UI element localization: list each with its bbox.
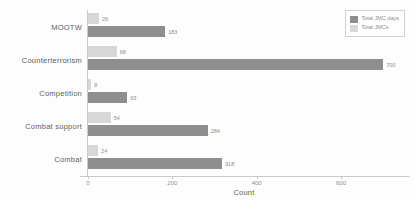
bar-total-jmcs: 68 [88,46,117,57]
legend-label-total-jmc-days: Total JMC days [361,16,399,22]
bar-total-jmcs: 8 [88,79,91,90]
chart-category-row: Counterterrorism68700 [88,43,400,76]
legend-item-total-jmc-days: Total JMC days [350,15,399,23]
x-axis-tick-label: 0 [86,180,89,186]
x-axis-tick-mark [341,176,342,179]
legend-swatch-icon-total-jmcs [350,25,358,32]
x-axis-tick-mark [257,176,258,179]
bar-value-label: 68 [120,49,126,55]
legend-label-total-jmcs: Total JMCs [361,25,388,31]
bar-value-label: 183 [168,29,177,35]
legend-item-total-jmcs: Total JMCs [350,24,399,32]
bar-value-label: 284 [211,128,220,134]
x-axis-tick-mark [172,176,173,179]
bar-value-label: 8 [94,82,97,88]
bar-value-label: 24 [101,148,107,154]
bar-total-jmcs: 54 [88,112,111,123]
bar-total-jmcs: 26 [88,13,99,24]
chart-category-row: Combat24318 [88,142,400,175]
x-axis-tick-label: 600 [336,180,346,186]
bar-total-jmc-days: 318 [88,158,222,169]
bar-value-label: 26 [102,16,108,22]
x-axis-tick-label: 400 [252,180,262,186]
y-axis-category-label: Counterterrorism [22,55,82,64]
bar-total-jmc-days: 700 [88,59,383,70]
x-axis-title: Count [88,188,400,197]
bar-total-jmc-days: 183 [88,26,165,37]
y-axis-category-label: Competition [39,88,82,97]
bar-value-label: 93 [130,95,136,101]
y-axis-category-label: Combat support [25,121,82,130]
bar-value-label: 700 [386,62,395,68]
bar-total-jmcs: 24 [88,145,98,156]
bar-value-label: 318 [225,161,234,167]
x-axis-line [80,176,410,177]
chart-legend: Total JMC days Total JMCs [345,10,405,37]
bar-chart: MOOTW26183Counterterrorism68700Competiti… [0,0,415,202]
bar-total-jmc-days: 284 [88,125,208,136]
legend-swatch-icon-total-jmc-days [350,16,358,23]
bar-value-label: 54 [114,115,120,121]
chart-category-row: Combat support54284 [88,109,400,142]
x-axis-tick-mark [88,176,89,179]
chart-category-row: Competition893 [88,76,400,109]
y-axis-category-label: Combat [54,154,82,163]
bar-total-jmc-days: 93 [88,92,127,103]
y-axis-category-label: MOOTW [51,22,82,31]
x-axis-tick-label: 200 [167,180,177,186]
